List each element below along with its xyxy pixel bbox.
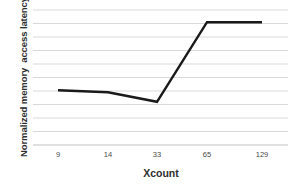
- x-tick-label-3: 65: [187, 150, 227, 159]
- x-tick-label-1: 14: [88, 150, 128, 159]
- chart-container: Normalized memory access latency 9 14 33…: [0, 0, 299, 189]
- x-tick-label-4: 129: [242, 150, 282, 159]
- gridlines: [33, 10, 288, 132]
- data-series-line: [58, 22, 262, 102]
- x-axis-title: Xcount: [33, 167, 289, 179]
- x-tick-label-0: 9: [38, 150, 78, 159]
- x-tick-labels: 9 14 33 65 129: [33, 150, 289, 164]
- x-tick-label-2: 33: [137, 150, 177, 159]
